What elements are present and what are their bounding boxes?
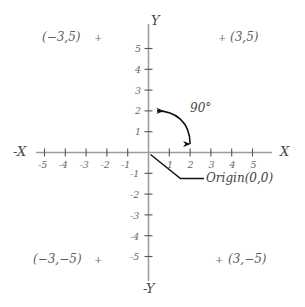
y-tick-label-4: 4 [135, 65, 141, 75]
coordinate-plane-figure: Y -Y X -X -5 -4 -3 -2 -1 1 2 3 4 5 1 2 3… [0, 0, 305, 307]
x-tick-label-minus3: -3 [80, 160, 89, 170]
origin-leader-line [151, 155, 205, 179]
x-tick-label-minus4: -4 [59, 160, 68, 170]
y-tick-label-3: 3 [135, 86, 141, 96]
x-axis-negative-label: -X [13, 145, 26, 158]
point-marker-quadrant-3: + [94, 255, 102, 265]
y-tick-label-minus1: -1 [130, 169, 139, 179]
point-marker-quadrant-4: + [215, 255, 223, 265]
y-tick-label-1: 1 [135, 127, 141, 137]
point-marker-quadrant-1: + [218, 33, 226, 43]
angle-label: 90° [190, 102, 211, 114]
y-tick-label-minus5: -5 [130, 252, 139, 262]
x-axis-positive-label: X [280, 145, 289, 158]
x-tick-label-2: 2 [188, 160, 194, 170]
x-tick-label-minus5: -5 [38, 160, 47, 170]
y-tick-label-5: 5 [135, 44, 141, 54]
x-tick-label-minus2: -2 [101, 160, 110, 170]
x-tick-label-3: 3 [209, 160, 215, 170]
point-label-quadrant-2: (−3,5) [42, 31, 81, 43]
ninety-degree-arc-arrow [157, 111, 190, 144]
y-tick-label-2: 2 [135, 106, 141, 116]
y-tick-label-minus4: -4 [130, 232, 139, 242]
point-label-quadrant-1: (3,5) [230, 31, 258, 43]
origin-label: Origin(0,0) [206, 172, 273, 184]
x-tick-label-5: 5 [251, 160, 257, 170]
point-label-quadrant-3: (−3,−5) [33, 253, 82, 265]
y-tick-label-minus3: -3 [130, 211, 139, 221]
point-marker-quadrant-2: + [94, 33, 102, 43]
x-tick-label-minus1: -1 [121, 160, 130, 170]
x-tick-label-1: 1 [167, 160, 173, 170]
y-axis-positive-label: Y [151, 14, 160, 27]
point-label-quadrant-4: (3,−5) [228, 253, 267, 265]
y-axis-negative-label: -Y [143, 282, 155, 295]
x-tick-label-4: 4 [230, 160, 236, 170]
y-tick-label-minus2: -2 [130, 190, 139, 200]
